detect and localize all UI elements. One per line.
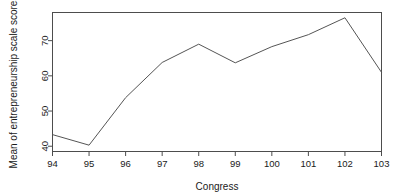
x-axis-tick-label: 95 <box>84 158 95 169</box>
chart-figure: 40506070 949596979899100101102103 Congre… <box>0 0 415 196</box>
y-axis-title: Mean of entrepreneurship scale scores <box>8 0 19 168</box>
x-axis-tick-label: 94 <box>47 158 58 169</box>
x-axis-tick-label: 102 <box>337 158 353 169</box>
x-axis-tick-label: 100 <box>264 158 280 169</box>
y-axis-tick-label: 50 <box>39 106 50 117</box>
x-axis-tick-label: 99 <box>230 158 241 169</box>
x-axis-tick-label: 98 <box>193 158 204 169</box>
x-axis-tick-label: 97 <box>157 158 168 169</box>
y-axis-tick-label: 40 <box>39 141 50 152</box>
x-axis-tick-label: 103 <box>374 158 390 169</box>
y-axis-tick-label: 60 <box>39 71 50 82</box>
x-axis-tick-label: 96 <box>120 158 131 169</box>
y-axis-tick-label: 70 <box>39 35 50 46</box>
x-axis-tick-label: 101 <box>300 158 316 169</box>
x-axis-title: Congress <box>196 181 239 192</box>
line-chart: 40506070 949596979899100101102103 Congre… <box>0 0 415 196</box>
